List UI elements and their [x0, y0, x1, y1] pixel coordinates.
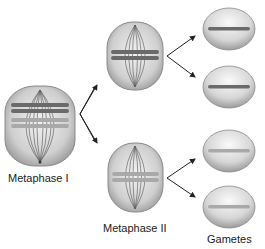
gametes-label: Gametes: [207, 233, 252, 245]
centrosome: [39, 161, 42, 164]
arrows-to-gametes: [167, 36, 195, 197]
gamete-2: [203, 66, 255, 108]
arrows-to-metaphase-2: [80, 85, 97, 143]
metaphase-1-cell: [5, 86, 75, 166]
chromosome: [111, 56, 159, 60]
gamete-3: [203, 130, 255, 172]
chromosome: [112, 178, 159, 182]
gamete-1: [203, 8, 255, 50]
chromosome: [112, 172, 159, 176]
metaphase-2-label: Metaphase II: [103, 222, 167, 234]
metaphase-2-cell-top: [107, 22, 163, 90]
gamete-4: [203, 186, 255, 228]
metaphase-2-cell-bottom: [108, 143, 163, 212]
meiosis-diagram: [0, 0, 265, 249]
metaphase-1-label: Metaphase I: [8, 172, 69, 184]
chromosome: [111, 50, 159, 54]
